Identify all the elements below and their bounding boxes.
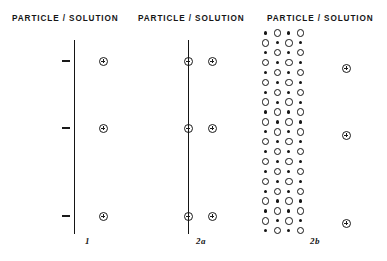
lattice-open-circle [262,98,269,105]
lattice-small-dot [276,199,279,202]
circled-plus-icon [208,124,217,133]
panel-2b-label: 2b [310,236,320,246]
lattice-small-dot [299,120,302,123]
lattice-open-circle [274,227,281,234]
circled-plus-icon [208,212,217,221]
lattice-small-dot [276,81,279,84]
lattice-small-dot [287,71,290,74]
circled-minus-icon [184,124,193,133]
lattice-small-dot [264,71,267,74]
lattice-small-dot [276,61,279,64]
lattice-small-dot [276,160,279,163]
minus-sign-icon [62,127,70,129]
lattice-open-circle [262,197,269,204]
lattice-open-circle [262,59,269,66]
lattice-small-dot [287,209,290,212]
lattice-open-circle [274,148,281,155]
minus-sign-icon [62,60,70,62]
lattice-open-circle [262,118,269,125]
minus-sign-icon [62,215,70,217]
panel-1-label: 1 [85,236,90,246]
lattice-open-circle [262,79,269,86]
lattice-open-circle [285,98,292,105]
lattice-open-circle [262,138,269,145]
lattice-open-circle [285,118,292,125]
figure-canvas: PARTICLE / SOLUTION PARTICLE / SOLUTION … [0,0,387,261]
lattice-small-dot [276,41,279,44]
circled-plus-icon [208,57,217,66]
lattice-open-circle [262,39,269,46]
lattice-small-dot [264,150,267,153]
lattice-small-dot [287,190,290,193]
lattice-open-circle [297,207,304,214]
lattice-small-dot [299,140,302,143]
lattice-open-circle [285,158,292,165]
lattice-small-dot [276,140,279,143]
lattice-open-circle [297,49,304,56]
lattice-open-circle [297,29,304,36]
lattice-small-dot [299,101,302,104]
lattice-open-circle [285,138,292,145]
panel-2a-label: 2a [196,236,206,246]
circled-plus-icon [99,212,108,221]
lattice-small-dot [276,101,279,104]
lattice-small-dot [264,130,267,133]
lattice-open-circle [285,59,292,66]
lattice-open-circle [262,217,269,224]
lattice-small-dot [299,81,302,84]
lattice-open-circle [297,227,304,234]
lattice-open-circle [285,197,292,204]
panel-1-interface-line [74,40,75,234]
lattice-small-dot [264,170,267,173]
lattice-open-circle [274,188,281,195]
lattice-open-circle [297,108,304,115]
lattice-small-dot [264,190,267,193]
circled-plus-icon [99,124,108,133]
panel-2b-header: PARTICLE / SOLUTION [267,14,374,23]
lattice-small-dot [287,170,290,173]
circled-plus-icon [342,64,351,73]
lattice-open-circle [262,158,269,165]
circled-plus-icon [342,131,351,140]
lattice-open-circle [285,178,292,185]
lattice-open-circle [297,89,304,96]
lattice-open-circle [274,89,281,96]
lattice-small-dot [287,51,290,54]
lattice-small-dot [264,91,267,94]
lattice-open-circle [274,108,281,115]
lattice-open-circle [274,69,281,76]
lattice-small-dot [299,180,302,183]
lattice-small-dot [299,41,302,44]
lattice-small-dot [287,91,290,94]
lattice-small-dot [287,229,290,232]
lattice-small-dot [299,160,302,163]
lattice-small-dot [264,110,267,113]
lattice-small-dot [276,120,279,123]
lattice-open-circle [285,217,292,224]
lattice-small-dot [264,229,267,232]
circled-minus-icon [184,57,193,66]
lattice-open-circle [274,128,281,135]
lattice-small-dot [299,219,302,222]
lattice-open-circle [297,148,304,155]
panel-1-header: PARTICLE / SOLUTION [12,14,119,23]
lattice-small-dot [276,219,279,222]
lattice-open-circle [274,168,281,175]
lattice-open-circle [297,128,304,135]
lattice-small-dot [299,199,302,202]
lattice-open-circle [274,207,281,214]
lattice-open-circle [285,79,292,86]
circled-plus-icon [342,219,351,228]
lattice-small-dot [264,31,267,34]
lattice-small-dot [264,51,267,54]
lattice-open-circle [285,39,292,46]
panel-2a-interface-line [188,40,189,234]
lattice-small-dot [287,130,290,133]
lattice-open-circle [297,188,304,195]
lattice-small-dot [287,110,290,113]
lattice-open-circle [262,178,269,185]
lattice-open-circle [297,69,304,76]
panel-2a-header: PARTICLE / SOLUTION [138,14,245,23]
lattice-open-circle [274,29,281,36]
lattice-small-dot [287,31,290,34]
